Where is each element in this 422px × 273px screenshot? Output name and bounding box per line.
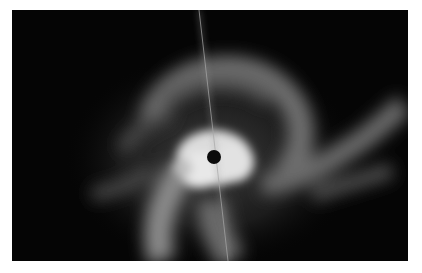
occulted-star-dot xyxy=(207,150,221,164)
nebula-illustration xyxy=(12,10,408,261)
astronomical-image xyxy=(12,10,408,261)
